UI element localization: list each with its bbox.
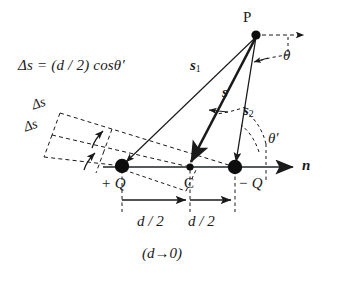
point-p-label: P — [243, 10, 251, 25]
dimension-label-left: d / 2 — [137, 214, 164, 229]
center-point-label: C — [184, 176, 194, 191]
negative-charge-label: − Q — [238, 176, 263, 191]
wavefront-dashed-lines — [44, 113, 235, 167]
charge-dot-negative — [228, 160, 242, 174]
theta-label: θ — [283, 48, 290, 63]
vector-s1 — [126, 37, 256, 162]
point-dot-p — [251, 30, 260, 39]
vector-s1-subscript: 1 — [196, 63, 201, 74]
charge-dot-center — [186, 163, 193, 170]
theta-prime-label: θ′ — [268, 131, 279, 146]
charge-dot-positive — [115, 159, 129, 173]
vector-s2-subscript: 2 — [249, 108, 254, 119]
theta-prime-inner-arc — [241, 125, 259, 152]
dimension-label-right: d / 2 — [188, 214, 215, 229]
limit-annotation: (d→0) — [142, 246, 182, 261]
diagram-vector-art — [0, 0, 339, 281]
vector-s2-label: s2 — [243, 103, 254, 119]
normal-vector-label: n — [302, 158, 310, 173]
delta-s-gap-arrows — [84, 131, 103, 170]
delta-s-formula: Δs = (d / 2) cosθ′ — [18, 58, 125, 73]
figure-canvas: Δs = (d / 2) cosθ′ Δs Δs P θ θ′ s1 s s2 … — [0, 0, 339, 281]
theta-arc-arrowhead — [254, 58, 268, 62]
vector-s-label: s — [222, 85, 228, 100]
vector-s1-label: s1 — [190, 58, 201, 74]
positive-charge-label: + Q — [101, 176, 126, 191]
